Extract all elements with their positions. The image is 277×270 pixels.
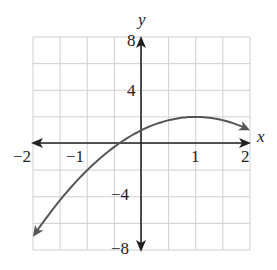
x-tick-neg1: −1: [66, 147, 84, 166]
y-tick-neg4: −4: [111, 185, 130, 204]
x-tick-1: 1: [191, 147, 200, 166]
y-tick-4: 4: [127, 81, 136, 100]
x-axis-label: x: [256, 127, 265, 146]
x-tick-neg2: −2: [13, 147, 31, 166]
graph: y x 8 4 −4 −8 −2 −1 1 2: [0, 0, 277, 270]
x-tick-2: 2: [241, 147, 250, 166]
y-axis-label: y: [136, 10, 146, 29]
y-tick-neg8: −8: [111, 239, 129, 258]
curve-start-arrow-icon: [33, 225, 43, 237]
y-tick-8: 8: [127, 31, 136, 50]
